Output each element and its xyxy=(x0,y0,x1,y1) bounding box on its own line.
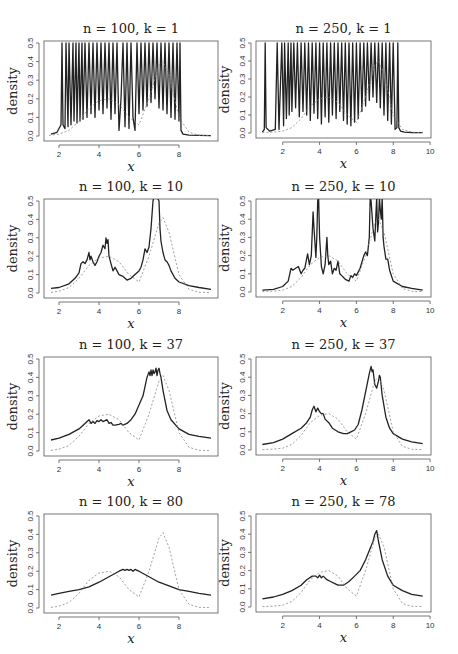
x-tick-label: 4 xyxy=(317,147,322,156)
y-tick-label: 0.2 xyxy=(238,91,247,103)
x-tick-label: 8 xyxy=(177,150,182,159)
x-tick-label: 2 xyxy=(280,306,285,315)
panel-5: n = 100, k = 370.00.10.20.30.40.52468den… xyxy=(5,337,218,489)
panel-8: n = 250, k = 780.00.10.20.30.40.5246810d… xyxy=(217,494,435,645)
x-axis-label: x xyxy=(127,631,135,646)
y-tick-label: 0.2 xyxy=(238,564,247,576)
y-tick-label: 0.1 xyxy=(238,268,247,280)
x-tick-label: 4 xyxy=(97,150,102,159)
y-tick-label: 0.4 xyxy=(26,528,35,540)
x-tick-label: 8 xyxy=(177,622,182,631)
y-tick-label: 0.5 xyxy=(238,353,247,365)
x-tick-label: 8 xyxy=(391,621,396,630)
x-tick-label: 4 xyxy=(317,621,322,630)
panel-6: n = 250, k = 370.00.10.20.30.40.5246810d… xyxy=(217,337,435,488)
x-tick-label: 6 xyxy=(137,465,142,474)
panel-7: n = 100, k = 800.00.10.20.30.40.52468den… xyxy=(5,494,218,646)
y-tick-label: 0.0 xyxy=(26,130,35,142)
x-axis-label: x xyxy=(127,316,135,331)
x-tick-label: 4 xyxy=(97,622,102,631)
x-tick-label: 10 xyxy=(426,464,435,473)
y-axis-label: density xyxy=(217,538,232,586)
x-tick-label: 6 xyxy=(354,621,359,630)
plot-frame xyxy=(256,514,431,612)
y-tick-label: 0.1 xyxy=(238,109,247,121)
estimate-line xyxy=(262,43,422,133)
y-tick-label: 0.0 xyxy=(26,602,35,614)
y-tick-label: 0.4 xyxy=(26,213,35,225)
x-tick-label: 10 xyxy=(426,147,435,156)
x-tick-label: 4 xyxy=(97,307,102,316)
x-tick-label: 4 xyxy=(317,464,322,473)
x-tick-label: 2 xyxy=(57,622,62,631)
y-tick-label: 0.4 xyxy=(26,371,35,383)
x-tick-label: 2 xyxy=(57,465,62,474)
x-axis-label: x xyxy=(340,315,348,330)
y-tick-label: 0.4 xyxy=(238,55,247,67)
y-tick-label: 0.0 xyxy=(26,287,35,299)
y-axis-label: density xyxy=(217,381,232,429)
x-axis-label: x xyxy=(340,473,348,488)
y-tick-label: 0.5 xyxy=(238,195,247,207)
x-tick-label: 6 xyxy=(354,306,359,315)
x-tick-label: 10 xyxy=(426,306,435,315)
y-tick-label: 0.4 xyxy=(238,528,247,540)
estimate-line xyxy=(262,531,422,599)
y-tick-label: 0.3 xyxy=(238,73,247,85)
panel-2: n = 250, k = 10.00.10.20.30.40.5246810de… xyxy=(217,21,435,171)
x-tick-label: 6 xyxy=(137,150,142,159)
panel-title: n = 100, k = 1 xyxy=(83,21,179,36)
y-tick-label: 0.0 xyxy=(26,445,35,457)
y-tick-label: 0.4 xyxy=(238,213,247,225)
y-tick-label: 0.3 xyxy=(238,389,247,401)
true-density-line xyxy=(262,534,422,606)
x-axis-label: x xyxy=(127,474,135,489)
y-tick-label: 0.5 xyxy=(238,510,247,522)
y-tick-label: 0.5 xyxy=(238,37,247,49)
y-tick-label: 0.3 xyxy=(26,390,35,402)
y-tick-label: 0.3 xyxy=(26,232,35,244)
estimate-line xyxy=(51,368,211,440)
x-tick-label: 2 xyxy=(280,147,285,156)
y-tick-label: 0.5 xyxy=(26,353,35,365)
panel-title: n = 250, k = 78 xyxy=(291,494,395,509)
estimate-line xyxy=(51,197,211,289)
y-tick-label: 0.0 xyxy=(238,127,247,139)
x-tick-label: 2 xyxy=(280,464,285,473)
y-tick-label: 0.1 xyxy=(26,426,35,438)
y-tick-label: 0.3 xyxy=(26,74,35,86)
y-tick-label: 0.0 xyxy=(238,286,247,298)
y-tick-label: 0.0 xyxy=(238,444,247,456)
panel-4: n = 250, k = 100.00.10.20.30.40.5246810d… xyxy=(217,179,435,330)
true-density-line xyxy=(262,377,422,449)
panel-title: n = 100, k = 10 xyxy=(79,179,183,194)
true-density-line xyxy=(51,218,211,293)
x-tick-label: 2 xyxy=(57,150,62,159)
y-tick-label: 0.3 xyxy=(26,547,35,559)
plot-frame xyxy=(256,199,431,297)
figure-canvas: n = 100, k = 10.00.10.20.30.40.52468dens… xyxy=(0,0,458,654)
x-tick-label: 2 xyxy=(280,621,285,630)
y-axis-label: density xyxy=(217,223,232,271)
panel-1: n = 100, k = 10.00.10.20.30.40.52468dens… xyxy=(5,21,218,174)
x-tick-label: 2 xyxy=(57,307,62,316)
y-tick-label: 0.4 xyxy=(26,55,35,67)
y-tick-label: 0.2 xyxy=(26,250,35,262)
panel-title: n = 250, k = 10 xyxy=(291,179,395,194)
plot-frame xyxy=(44,514,218,613)
x-tick-label: 4 xyxy=(97,465,102,474)
x-tick-label: 6 xyxy=(137,307,142,316)
panel-3: n = 100, k = 100.00.10.20.30.40.52468den… xyxy=(5,179,218,331)
y-tick-label: 0.1 xyxy=(238,426,247,438)
x-tick-label: 6 xyxy=(137,622,142,631)
true-density-line xyxy=(262,219,422,291)
y-tick-label: 0.5 xyxy=(26,195,35,207)
x-tick-label: 10 xyxy=(426,621,435,630)
y-tick-label: 0.1 xyxy=(26,583,35,595)
x-tick-label: 8 xyxy=(391,147,396,156)
x-tick-label: 6 xyxy=(354,147,359,156)
x-tick-label: 4 xyxy=(317,306,322,315)
true-density-line xyxy=(51,376,211,451)
y-tick-label: 0.0 xyxy=(238,601,247,613)
y-tick-label: 0.1 xyxy=(26,268,35,280)
